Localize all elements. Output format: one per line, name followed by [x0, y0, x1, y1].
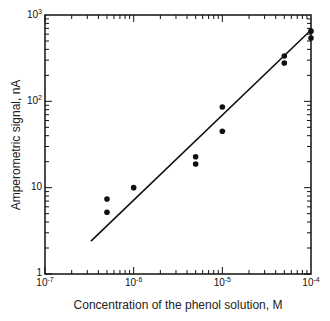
x-tick-label: 10-4	[302, 276, 319, 288]
y-tick-label: 102	[27, 94, 42, 106]
x-tick-label: 10-5	[214, 276, 231, 288]
data-point	[104, 196, 110, 202]
y-tick-label: 103	[27, 8, 42, 20]
data-point	[282, 60, 288, 66]
data-point	[193, 154, 199, 160]
x-axis-label: Concentration of the phenol solution, M	[74, 298, 283, 312]
y-tick-label: 10	[31, 181, 42, 192]
x-tick-label: 10-6	[125, 276, 142, 288]
y-tick-label: 1	[36, 267, 42, 278]
plot-frame	[45, 15, 311, 274]
data-point	[220, 128, 226, 134]
data-point	[193, 161, 199, 167]
data-point	[131, 185, 137, 191]
data-point	[308, 35, 314, 41]
data-point	[104, 209, 110, 215]
y-axis-label: Amperometric signal, nA	[9, 80, 23, 211]
fit-line	[91, 30, 311, 241]
chart-canvas	[0, 0, 330, 321]
data-point	[220, 104, 226, 110]
